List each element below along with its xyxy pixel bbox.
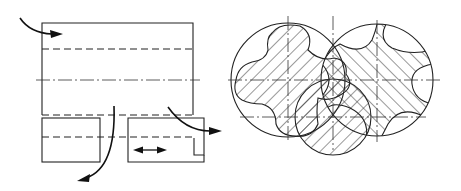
slide-valve-box-body: [128, 118, 204, 162]
diagram-canvas: [0, 0, 461, 191]
lower-left-port-box: [42, 118, 100, 162]
slide-valve-double-arrow: [133, 147, 167, 154]
outlet-flow-arrow-right: [168, 107, 222, 135]
housing-outline: [42, 23, 193, 115]
outlet-flow-arrow-down: [77, 106, 114, 182]
rotor-cross-section: [228, 16, 440, 155]
side-section-view: [20, 18, 222, 182]
slide-valve-box: [193, 118, 204, 155]
